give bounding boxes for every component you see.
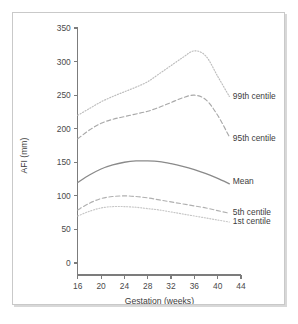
axes-group: 0501001502002503003501620242832364044 xyxy=(57,23,246,291)
y-tick-label: 50 xyxy=(61,224,71,234)
x-tick-label: 16 xyxy=(73,281,83,291)
figure-root: 0501001502002503003501620242832364044 99… xyxy=(0,0,298,324)
series-curve-99th-centile xyxy=(78,51,230,115)
series-label-95th-centile: 95th centile xyxy=(233,133,276,143)
x-tick-label: 24 xyxy=(120,281,130,291)
series-curve-1st-centile xyxy=(78,206,230,222)
y-tick-label: 0 xyxy=(66,258,71,268)
x-tick-label: 40 xyxy=(213,281,223,291)
series-curve-mean xyxy=(78,161,230,184)
curves-group xyxy=(78,51,230,222)
figure-frame: 0501001502002503003501620242832364044 99… xyxy=(12,12,285,305)
y-tick-label: 100 xyxy=(57,191,71,201)
y-axis-title: AFI (mm) xyxy=(19,137,29,173)
y-tick-label: 250 xyxy=(57,90,71,100)
x-tick-label: 32 xyxy=(166,281,176,291)
x-tick-label: 20 xyxy=(96,281,106,291)
series-labels-group: 99th centile95th centileMean5th centile1… xyxy=(233,91,276,226)
y-tick-label: 150 xyxy=(57,157,71,167)
x-tick-label: 44 xyxy=(236,281,246,291)
y-tick-label: 350 xyxy=(57,23,71,33)
series-curve-5th-centile xyxy=(78,196,230,213)
x-tick-label: 36 xyxy=(190,281,200,291)
series-label-1st-centile: 1st centile xyxy=(233,216,271,226)
y-tick-label: 300 xyxy=(57,57,71,67)
afi-gestation-line-chart: 0501001502002503003501620242832364044 99… xyxy=(13,13,284,304)
series-label-mean: Mean xyxy=(233,176,254,186)
x-axis-title: Gestation (weeks) xyxy=(125,296,194,304)
y-tick-label: 200 xyxy=(57,124,71,134)
series-label-99th-centile: 99th centile xyxy=(233,91,276,101)
x-tick-label: 28 xyxy=(143,281,153,291)
